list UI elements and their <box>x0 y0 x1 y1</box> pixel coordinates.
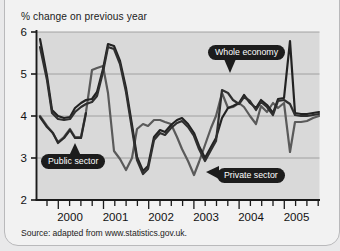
x-tick-label-2002: 2002 <box>148 211 174 223</box>
y-tick-label-2: 2 <box>21 194 27 206</box>
y-tick-label-5: 5 <box>21 68 27 80</box>
callout-pointer-private-sector <box>206 166 219 179</box>
x-tick-label-2004: 2004 <box>238 211 264 223</box>
callout-public-sector: Public sector <box>41 154 105 169</box>
x-tick-label-2005: 2005 <box>284 211 310 223</box>
callout-pointer-public-sector <box>69 143 81 156</box>
x-tick-label-2000: 2000 <box>57 211 83 223</box>
y-tick-label-3: 3 <box>21 152 27 164</box>
callout-whole-economy: Whole economy <box>208 45 285 60</box>
y-tick-labels: 6 5 4 3 2 <box>21 26 28 206</box>
x-tick-label-2001: 2001 <box>103 211 129 223</box>
callout-pointer-whole-economy <box>224 59 236 73</box>
x-tick-labels: 2000 2001 2002 2003 2004 2005 <box>57 211 309 223</box>
source-note: Source: adapted from www.statistics.gov.… <box>21 228 187 238</box>
y-tick-label-4: 4 <box>21 110 28 122</box>
y-tick-label-6: 6 <box>21 26 27 38</box>
callout-private-sector: Private sector <box>217 168 285 183</box>
x-tick-label-2003: 2003 <box>193 211 219 223</box>
x-tick-marks <box>47 200 318 209</box>
